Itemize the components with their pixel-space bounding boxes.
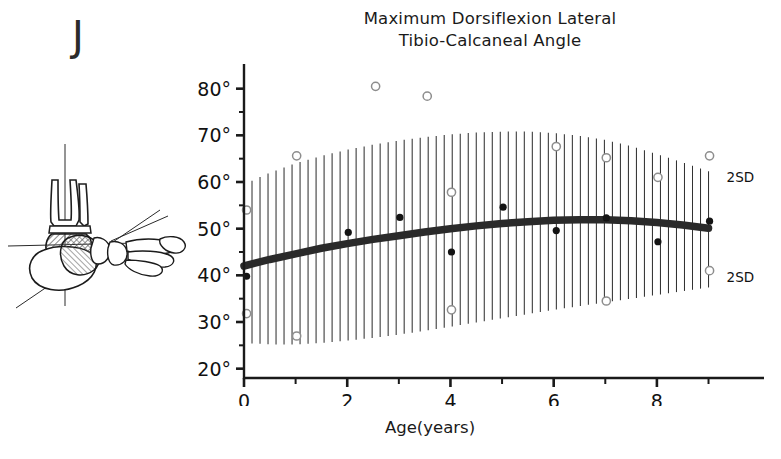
forefoot-axis-line — [111, 216, 168, 241]
sd-annotations: 2SD2SD — [727, 169, 755, 285]
sd-band-hatching — [244, 132, 709, 345]
y-tick-label: 80° — [197, 78, 231, 100]
y-tick-label: 20° — [197, 358, 231, 380]
sd-annotation-label: 2SD — [727, 169, 755, 185]
chart-svg: 20°30°40°50°60°70°80° 02468 2SD2SD — [196, 56, 771, 406]
y-tick-label: 50° — [197, 218, 231, 240]
midfoot-bones — [91, 237, 127, 265]
x-tick-label: 4 — [444, 390, 456, 406]
tibia-outline — [51, 180, 88, 226]
x-axis-tick-labels: 02468 — [238, 390, 663, 406]
x-tick-label: 2 — [341, 390, 353, 406]
figure-panel-j: J — [0, 0, 781, 459]
foot-diagram-svg — [8, 138, 198, 310]
y-tick-label: 30° — [197, 311, 231, 333]
foot-radiograph-diagram — [8, 138, 198, 310]
calcaneus-shape — [30, 235, 101, 290]
y-tick-label: 60° — [197, 171, 231, 193]
x-tick-label: 8 — [651, 390, 663, 406]
y-axis-tick-labels: 20°30°40°50°60°70°80° — [197, 78, 231, 380]
x-tick-label: 0 — [238, 390, 250, 406]
y-tick-label: 40° — [197, 264, 231, 286]
ankle-joint — [49, 226, 91, 233]
filled-circle-markers — [243, 204, 713, 280]
x-tick-label: 6 — [548, 390, 560, 406]
y-tick-label: 70° — [197, 124, 231, 146]
chart-title-line-1: Maximum Dorsiflexion Lateral — [240, 8, 740, 30]
chart-title-line-2: Tibio-Calcaneal Angle — [240, 30, 740, 52]
panel-label: J — [72, 16, 84, 56]
axis-lines — [8, 144, 180, 308]
forefoot-bones — [125, 237, 185, 277]
x-axis-title: Age(years) — [300, 418, 560, 437]
open-circle-markers — [242, 82, 713, 340]
sd-annotation-label: 2SD — [727, 269, 755, 285]
chart-plot-area: 20°30°40°50°60°70°80° 02468 2SD2SD — [196, 56, 771, 406]
chart-title: Maximum Dorsiflexion Lateral Tibio-Calca… — [240, 8, 740, 53]
